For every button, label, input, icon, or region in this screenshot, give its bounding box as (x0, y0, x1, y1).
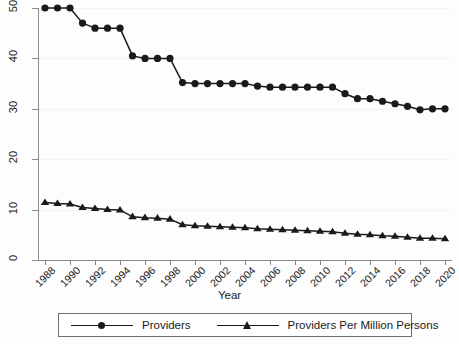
x-axis-tick-label: 2008 (282, 264, 307, 289)
x-axis-tick-label: 1994 (107, 264, 132, 289)
x-axis-tick-label: 2018 (407, 264, 432, 289)
x-axis-tick (270, 260, 271, 265)
x-axis-tick-label: 2014 (357, 264, 382, 289)
y-axis-tick-label: 0 (7, 245, 19, 271)
chart-legend: Providers Providers Per Million Persons (58, 313, 412, 337)
y-axis-tick-label: 20 (7, 144, 19, 170)
legend-entry-providers-per-million: Providers Per Million Persons (217, 314, 439, 336)
gridline (39, 58, 452, 59)
y-axis-tick (32, 109, 38, 110)
y-axis-tick (32, 58, 38, 59)
gridline (39, 8, 452, 9)
x-axis-tick (45, 260, 46, 265)
x-axis-tick (445, 260, 446, 265)
x-axis-tick-label: 1996 (132, 264, 157, 289)
x-axis-tick-label: 2000 (182, 264, 207, 289)
legend-label-providers-per-million: Providers Per Million Persons (288, 319, 439, 331)
x-axis-tick-label: 2016 (382, 264, 407, 289)
x-axis-tick (370, 260, 371, 265)
x-axis-tick-label: 2002 (207, 264, 232, 289)
x-axis-tick-label: 2020 (432, 264, 457, 289)
y-axis-tick (32, 159, 38, 160)
x-axis-tick (320, 260, 321, 265)
y-axis-tick (32, 8, 38, 9)
y-axis-tick-label: 40 (7, 43, 19, 69)
x-axis-tick (220, 260, 221, 265)
y-axis-tick-label: 10 (7, 195, 19, 221)
x-axis-tick (120, 260, 121, 265)
plot-area (38, 8, 452, 259)
x-axis-tick (295, 260, 296, 265)
x-axis-tick-label: 1990 (57, 264, 82, 289)
x-axis-tick (420, 260, 421, 265)
x-axis-tick (245, 260, 246, 265)
gridline (39, 159, 452, 160)
x-axis-tick-label: 2012 (332, 264, 357, 289)
x-axis-tick (195, 260, 196, 265)
x-axis-tick-label: 1998 (157, 264, 182, 289)
x-axis-tick (345, 260, 346, 265)
x-axis-tick (395, 260, 396, 265)
gridline (39, 109, 452, 110)
x-axis-tick-label: 2010 (307, 264, 332, 289)
x-axis-tick (70, 260, 71, 265)
y-axis-tick (32, 260, 38, 261)
legend-marker-circle-icon (71, 319, 133, 331)
chart-container: 01020304050 1988199019921994199619982000… (0, 0, 459, 344)
x-axis-tick-label: 2006 (257, 264, 282, 289)
x-axis-tick-label: 1988 (32, 264, 57, 289)
x-axis-tick (145, 260, 146, 265)
x-axis-tick (95, 260, 96, 265)
x-axis-tick-label: 2004 (232, 264, 257, 289)
x-axis-tick (170, 260, 171, 265)
x-axis-title: Year (0, 289, 459, 301)
legend-marker-triangle-icon (217, 319, 279, 331)
legend-label-providers: Providers (142, 319, 191, 331)
y-axis-tick-label: 50 (7, 0, 19, 19)
gridline (39, 210, 452, 211)
y-axis-tick (32, 210, 38, 211)
legend-entry-providers: Providers (71, 314, 191, 336)
y-axis-tick-label: 30 (7, 94, 19, 120)
x-axis-tick-label: 1992 (82, 264, 107, 289)
y-axis-line (38, 8, 39, 261)
